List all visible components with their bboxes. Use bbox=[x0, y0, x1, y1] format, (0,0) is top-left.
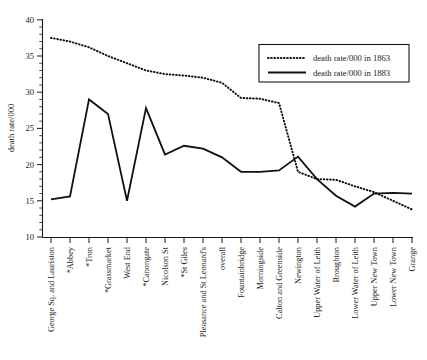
x-tick-label: Morningside bbox=[256, 247, 265, 290]
chart-container: 40 35 30 25 20 15 10 death rate/000 bbox=[0, 0, 427, 360]
x-tick-label: *Canongate bbox=[142, 247, 151, 287]
y-tick-label: 20 bbox=[26, 160, 35, 170]
legend-label-1883: death rate/000 in 1883 bbox=[313, 68, 390, 78]
chart-legend: death rate/000 in 1863 death rate/000 in… bbox=[259, 45, 409, 83]
y-tick-label: 25 bbox=[26, 123, 35, 133]
x-tick-label: Lower Water of Leith bbox=[351, 246, 360, 319]
x-axis-ticks bbox=[51, 238, 412, 244]
y-tick-label: 15 bbox=[26, 196, 35, 206]
x-tick-label: Calton and Greenside bbox=[275, 247, 284, 319]
series-line-1883 bbox=[51, 99, 412, 206]
x-tick-label: Grange bbox=[408, 247, 417, 272]
y-axis-tick-labels: 40 35 30 25 20 15 10 bbox=[26, 15, 35, 242]
x-tick-label: *St Giles bbox=[180, 247, 189, 278]
x-tick-label: overall bbox=[218, 246, 227, 270]
x-tick-label: Pleasance and St Leonard's bbox=[199, 247, 208, 337]
x-tick-label: Upper Water of Leith bbox=[313, 246, 322, 318]
x-tick-label: West End bbox=[123, 246, 132, 279]
y-tick-label: 30 bbox=[26, 87, 35, 97]
x-axis-tick-labels: George Sq. and Lauriston *Abbey *Tron *G… bbox=[47, 246, 417, 337]
x-tick-label: Nicolson St bbox=[161, 246, 170, 286]
x-tick-label: *Tron bbox=[85, 246, 94, 267]
y-axis-title: death rate/000 bbox=[6, 104, 16, 152]
y-axis-major-ticks bbox=[37, 20, 43, 237]
y-tick-label: 35 bbox=[26, 51, 35, 61]
x-tick-label: Lower New Town bbox=[389, 246, 398, 307]
line-chart: 40 35 30 25 20 15 10 death rate/000 bbox=[0, 0, 427, 360]
x-tick-label: George Sq. and Lauriston bbox=[47, 246, 56, 332]
x-tick-label: Fountainbridge bbox=[237, 247, 246, 298]
y-tick-label: 10 bbox=[26, 232, 35, 242]
legend-label-1863: death rate/000 in 1863 bbox=[313, 53, 390, 63]
x-tick-label: Upper New Town bbox=[370, 246, 379, 306]
x-tick-label: Newington bbox=[294, 246, 303, 284]
x-tick-label: *Abbey bbox=[66, 246, 75, 273]
x-tick-label: *Grassmarket bbox=[104, 246, 113, 293]
x-tick-label: Broughton bbox=[332, 246, 341, 282]
y-tick-label: 40 bbox=[26, 15, 35, 25]
